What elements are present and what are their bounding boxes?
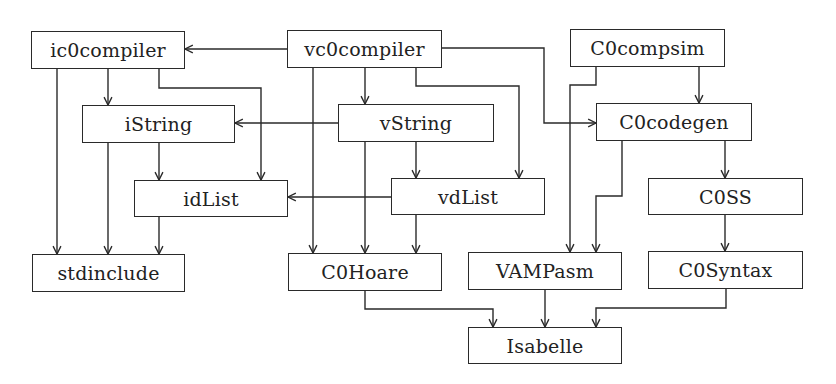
node-label: Isabelle (507, 335, 584, 357)
node-c0codegen: C0codegen (596, 103, 752, 141)
node-label: stdinclude (57, 262, 159, 284)
node-vstring: vString (338, 104, 494, 142)
node-label: vc0compiler (304, 38, 424, 60)
node-label: vdList (438, 186, 498, 208)
dependency-diagram: ic0compiler vc0compiler C0compsim iStrin… (0, 0, 836, 384)
node-c0hoare: C0Hoare (288, 253, 442, 291)
edge-C0Hoare-to-Isabelle (365, 291, 493, 327)
node-idlist: idList (134, 180, 288, 217)
node-ic0compiler: ic0compiler (31, 31, 185, 69)
node-isabelle: Isabelle (468, 327, 622, 364)
node-label: VAMPasm (496, 260, 594, 282)
node-stdinclude: stdinclude (32, 254, 185, 292)
node-vampasm: VAMPasm (468, 252, 622, 290)
node-label: C0Syntax (679, 259, 773, 281)
node-label: C0codegen (619, 111, 729, 133)
node-c0compsim: C0compsim (570, 29, 725, 67)
node-vdlist: vdList (391, 178, 545, 215)
node-istring: iString (82, 105, 235, 143)
node-c0syntax: C0Syntax (648, 251, 803, 289)
node-label: vString (380, 112, 452, 134)
edge-C0compsim-to-VAMPasm (570, 67, 596, 252)
node-label: idList (183, 188, 239, 210)
node-label: iString (125, 113, 193, 135)
edge-C0Syntax-to-Isabelle (596, 289, 726, 327)
node-label: C0Hoare (321, 261, 409, 283)
node-label: C0SS (699, 186, 752, 208)
node-vc0compiler: vc0compiler (287, 30, 442, 68)
node-c0ss: C0SS (648, 178, 803, 215)
edge-C0codegen-to-VAMPasm (596, 141, 622, 252)
node-label: ic0compiler (50, 39, 166, 61)
node-label: C0compsim (590, 37, 705, 59)
